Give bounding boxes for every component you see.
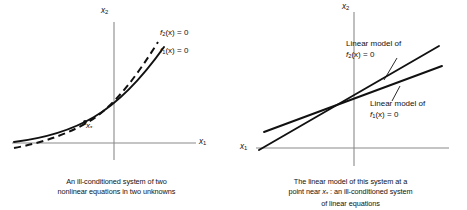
plot-linear-model-lines xyxy=(234,0,467,175)
solution-point-label-star: * xyxy=(90,124,92,131)
right-x-axis-label-sub: 1 xyxy=(244,145,247,151)
left-x-axis-label-sub: 1 xyxy=(203,140,206,146)
lm-f2-rest: (x) = 0 xyxy=(351,50,374,59)
caption-right-line-2: point near x* : an ill-conditioned syste… xyxy=(234,187,467,199)
right-y-axis-label-sub: 2 xyxy=(346,5,349,11)
right-y-axis-label: x2 xyxy=(342,2,349,11)
f2-dashed-curve xyxy=(14,42,158,148)
linear-model-f2-label: Linear model of f2(x) = 0 xyxy=(346,39,401,61)
linear-model-f1-eq: f1(x) = 0 xyxy=(370,110,425,122)
leader-line-f2 xyxy=(384,58,397,80)
panel-nonlinear-system: x2 x1 f2(x) = 0 f1(x) = 0 x* An ill-cond… xyxy=(0,0,233,210)
lm-f1-rest: (x) = 0 xyxy=(375,110,398,119)
caption-right-line-2-pre: point near xyxy=(288,187,322,196)
linear-model-f2-lead: Linear model of xyxy=(346,39,401,50)
figure-container: x2 x1 f2(x) = 0 f1(x) = 0 x* An ill-cond… xyxy=(0,0,467,210)
linear-model-f2-eq: f2(x) = 0 xyxy=(346,50,401,62)
left-x-axis-label: x1 xyxy=(199,137,206,146)
panel-linear-model-system: x2 x1 Linear model of f2(x) = 0 Linear m… xyxy=(234,0,467,210)
caption-right-line-3: of linear equations xyxy=(234,199,467,209)
left-y-axis-label: x2 xyxy=(101,6,108,15)
caption-left-line-2: nonlinear equations in two unknowns xyxy=(0,187,233,197)
caption-right-line-2-post: : an ill-conditioned system xyxy=(328,187,413,196)
linear-model-f1-lead: Linear model of xyxy=(370,99,425,110)
f2-curve-label: f2(x) = 0 xyxy=(160,28,188,37)
solution-point-label: x* xyxy=(86,121,92,131)
caption-nonlinear-system: An ill-conditioned system of two nonline… xyxy=(0,177,233,196)
caption-left-line-1: An ill-conditioned system of two xyxy=(0,177,233,187)
f1-label-rest: (x) = 0 xyxy=(165,46,188,55)
caption-linear-model-system: The linear model of this system at a poi… xyxy=(234,177,467,208)
plot-nonlinear-curves xyxy=(0,0,233,175)
f1-curve-label: f1(x) = 0 xyxy=(160,46,188,55)
linear-model-f2-line xyxy=(259,46,439,150)
linear-model-f1-label: Linear model of f1(x) = 0 xyxy=(370,99,425,121)
right-x-axis-label: x1 xyxy=(240,142,247,151)
left-y-axis-label-sub: 2 xyxy=(105,9,108,15)
f2-label-rest: (x) = 0 xyxy=(165,28,188,37)
caption-right-line-1: The linear model of this system at a xyxy=(234,177,467,187)
